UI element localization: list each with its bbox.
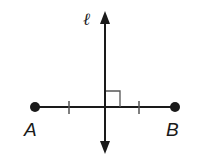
point-a (30, 102, 40, 112)
diagram-canvas: ℓ A B (0, 0, 203, 160)
point-b-label: B (166, 119, 179, 140)
arrowhead-down-icon (100, 141, 110, 154)
arrowhead-up-icon (100, 11, 110, 24)
point-b (170, 102, 180, 112)
line-l-label: ℓ (83, 9, 90, 29)
point-a-label: A (23, 119, 37, 140)
right-angle-marker (105, 91, 120, 107)
